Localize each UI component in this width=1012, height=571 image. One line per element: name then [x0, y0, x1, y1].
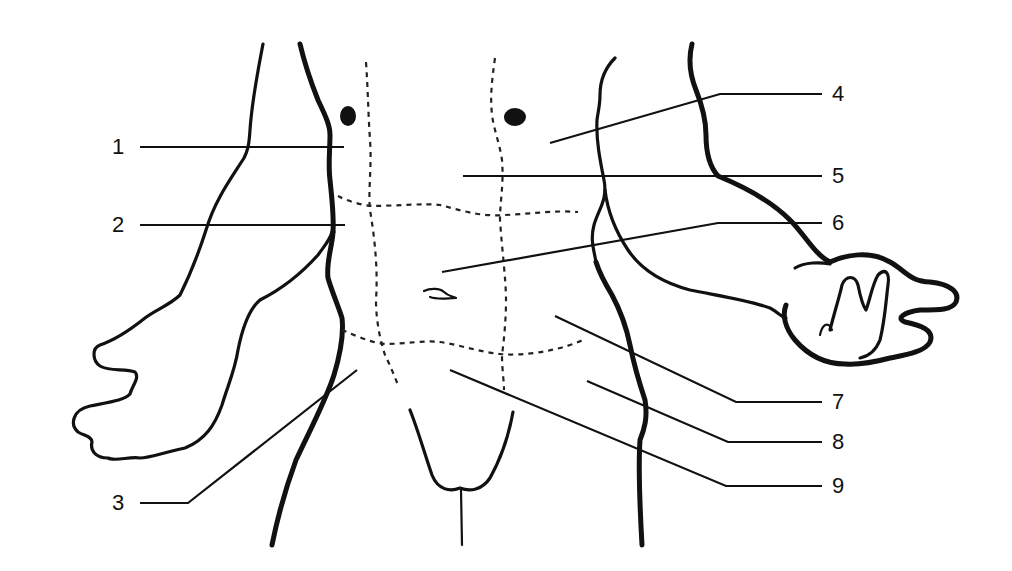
leader-line-8: [587, 381, 822, 442]
leader-line-3: [140, 370, 357, 503]
left-arm-outline: [74, 44, 334, 459]
leader-line-4: [550, 94, 822, 143]
left-vertical-dashed-line: [366, 62, 398, 385]
left-nipple: [340, 106, 356, 126]
right-vertical-dashed-line: [491, 58, 506, 390]
label-3: 3: [112, 492, 124, 514]
leader-line-6: [442, 223, 822, 272]
label-8: 8: [832, 431, 844, 453]
umbilicus: [424, 289, 456, 299]
right-nipple: [504, 108, 526, 126]
label-9: 9: [832, 475, 844, 497]
label-6: 6: [832, 212, 844, 234]
region-dividing-lines: [338, 58, 586, 390]
label-5: 5: [832, 165, 844, 187]
right-arm-outline: [592, 44, 957, 364]
label-7: 7: [832, 391, 844, 413]
abdominal-regions-diagram: [0, 0, 1012, 571]
leader-line-7: [555, 316, 822, 402]
upper-horizontal-dashed-line: [338, 196, 578, 215]
leader-lines: [140, 94, 822, 503]
leader-line-9: [450, 370, 822, 486]
groin-outline: [410, 410, 513, 545]
label-2: 2: [112, 214, 124, 236]
label-4: 4: [832, 83, 844, 105]
label-1: 1: [112, 136, 124, 158]
